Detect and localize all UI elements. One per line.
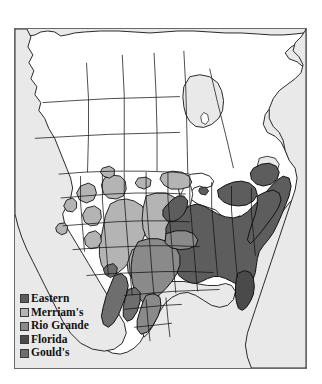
range-florida [235,271,254,311]
distribution-map: Eastern Merriam's Rio Grande Florida Gou… [14,28,307,369]
legend-label-merriams: Merriam's [31,307,83,319]
legend-item-florida[interactable]: Florida [20,333,128,347]
legend-label-eastern: Eastern [31,293,69,305]
legend-swatch-merriams [20,308,29,317]
legend-item-merriams[interactable]: Merriam's [20,306,128,320]
legend-label-florida: Florida [31,334,67,346]
legend-swatch-goulds [20,349,29,358]
legend-label-goulds: Gould's [31,347,69,359]
legend-swatch-rio-grande [20,322,29,331]
legend-label-rio-grande: Rio Grande [31,320,89,332]
legend-item-eastern[interactable]: Eastern [20,292,128,306]
legend-swatch-eastern [20,294,29,303]
legend-swatch-florida [20,335,29,344]
legend-item-rio-grande[interactable]: Rio Grande [20,319,128,333]
map-legend: Eastern Merriam's Rio Grande Florida Gou… [18,290,128,362]
legend-item-goulds[interactable]: Gould's [20,346,128,360]
